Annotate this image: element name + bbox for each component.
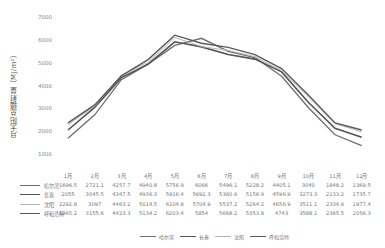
table-header-cell: 11月: [322, 172, 348, 179]
table-header-cell: 12月: [349, 172, 375, 179]
y-axis-ticks: 01000200030004000500060007000: [38, 14, 53, 172]
table-cell: 4405.1: [269, 182, 295, 188]
table-header-cell: 10月: [295, 172, 321, 179]
table-cell: 5916.4: [162, 191, 188, 197]
table-cell: 2721.1: [82, 182, 108, 188]
table-cell: 1977.4: [349, 201, 375, 207]
table-header-cell: 7月: [215, 172, 241, 179]
series-line: [68, 38, 362, 145]
table-header-cell: 5月: [162, 172, 188, 179]
table-cell: 5360.6: [215, 191, 241, 197]
table-cell: 4257.7: [108, 182, 134, 188]
table-cell: 5496.1: [215, 182, 241, 188]
legend-item: 长春: [180, 233, 209, 240]
legend-swatch: [20, 194, 40, 195]
legend-swatch: [20, 185, 40, 186]
table-cell: 2334.6: [322, 201, 348, 207]
table-cell: 4596.9: [269, 191, 295, 197]
legend-label: 沈阳: [234, 233, 244, 240]
legend-line-icon: [140, 236, 156, 237]
table-cell: 5264.2: [242, 201, 268, 207]
y-tick-label: 6000: [38, 37, 52, 43]
table-cell: 1848.2: [322, 182, 348, 188]
legend-label: 哈尔滨: [159, 233, 174, 240]
legend-swatch: [20, 213, 40, 214]
table-cell: 5704.9: [189, 201, 215, 207]
table-cell: 4423.3: [108, 210, 134, 216]
table-cell: 5668.2: [215, 210, 241, 216]
table-cell: 3273.3: [295, 191, 321, 197]
table-header-cell: 4月: [135, 172, 161, 179]
table-header-cell: 8月: [242, 172, 268, 179]
table-cell: 4656.9: [269, 201, 295, 207]
table-cell: 6066: [189, 182, 215, 188]
table-cell: 5692.3: [189, 191, 215, 197]
y-tick-label: 7000: [38, 14, 52, 20]
series-line: [68, 35, 362, 130]
table-header-cell: 9月: [269, 172, 295, 179]
table-cell: 4743: [269, 210, 295, 216]
table-cell: 3511.1: [295, 201, 321, 207]
table-cell: 3040: [295, 182, 321, 188]
legend-line-icon: [215, 236, 231, 237]
table-cell: 3155.6: [82, 210, 108, 216]
y-tick-label: 5000: [38, 60, 52, 66]
table-cell: 6104.8: [162, 201, 188, 207]
table-cell: 5014.5: [135, 201, 161, 207]
table-cell: 1735.7: [349, 191, 375, 197]
legend-label: 呼和浩特: [269, 233, 289, 240]
line-plot: 01000200030004000500060007000: [0, 0, 385, 172]
table-cell: 2365.2: [55, 210, 81, 216]
table-cell: 5537.2: [215, 201, 241, 207]
table-header-cell: 2月: [82, 172, 108, 179]
y-tick-label: 2000: [38, 128, 52, 134]
series-lines: [68, 35, 362, 146]
table-cell: 5353.8: [242, 210, 268, 216]
table-header-cell: 6月: [189, 172, 215, 179]
table-cell: 3097: [82, 201, 108, 207]
series-line: [68, 42, 362, 138]
legend: 哈尔滨长春沈阳呼和浩特: [140, 233, 289, 240]
table-cell: 5134.2: [135, 210, 161, 216]
table-cell: 2055: [55, 191, 81, 197]
legend-item: 沈阳: [215, 233, 244, 240]
legend-line-icon: [250, 236, 266, 237]
y-tick-label: 4000: [38, 83, 52, 89]
table-cell: 5228.2: [242, 182, 268, 188]
table-cell: 3045.5: [82, 191, 108, 197]
table-cell: 2292.8: [55, 201, 81, 207]
table-cell: 3588.1: [295, 210, 321, 216]
legend-line-icon: [180, 236, 196, 237]
table-cell: 4463.2: [108, 201, 134, 207]
legend-label: 长春: [199, 233, 209, 240]
table-cell: 4936.3: [135, 191, 161, 197]
table-header-cell: 1月: [55, 172, 81, 179]
table-cell: 2365.5: [322, 210, 348, 216]
row-label: 沈阳: [44, 201, 54, 208]
legend-swatch: [20, 204, 40, 205]
table-cell: 4940.8: [135, 182, 161, 188]
table-cell: 4347.5: [108, 191, 134, 197]
y-tick-label: 1000: [38, 151, 52, 157]
legend-item: 哈尔滨: [140, 233, 174, 240]
table-cell: 5854: [189, 210, 215, 216]
table-cell: 2133.2: [322, 191, 348, 197]
table-cell: 1696.5: [55, 182, 81, 188]
row-label: 长春: [44, 191, 54, 198]
table-header-cell: 3月: [108, 172, 134, 179]
legend-item: 呼和浩特: [250, 233, 289, 240]
table-cell: 2056.3: [349, 210, 375, 216]
table-cell: 5158.9: [242, 191, 268, 197]
table-cell: 6203.4: [162, 210, 188, 216]
y-tick-label: 3000: [38, 105, 52, 111]
table-cell: 1369.5: [349, 182, 375, 188]
table-cell: 5756.9: [162, 182, 188, 188]
